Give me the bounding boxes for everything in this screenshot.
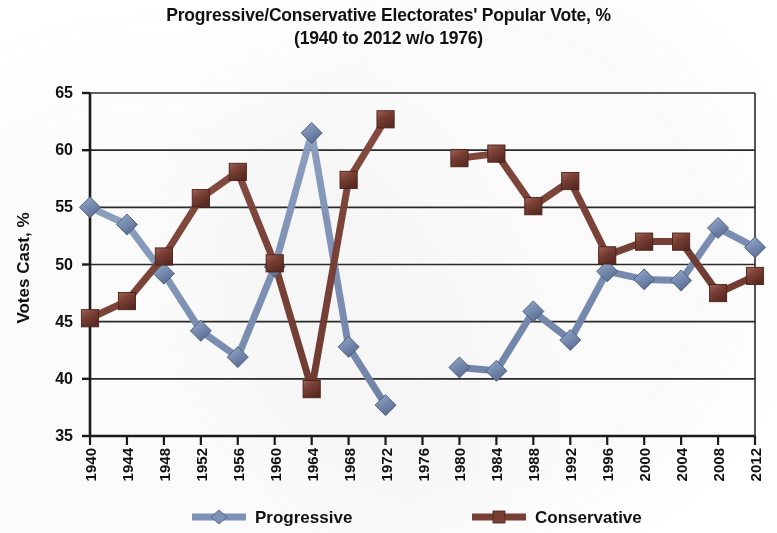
y-axis-tick-label: 65 bbox=[27, 85, 73, 101]
x-axis-tick-label: 1972 bbox=[378, 448, 395, 481]
data-point-square[interactable] bbox=[636, 233, 653, 250]
x-axis-tick-label: 1956 bbox=[230, 448, 247, 481]
series-progressive bbox=[90, 133, 755, 405]
plot-area: 65605550454035 1940194419481952195619601… bbox=[0, 0, 777, 533]
gridlines bbox=[90, 93, 755, 436]
legend-marker-diamond-icon bbox=[190, 509, 248, 525]
y-axis-tick-label: 50 bbox=[27, 257, 73, 273]
chart-legend: Progressive Conservative bbox=[0, 504, 777, 532]
data-point-square[interactable] bbox=[746, 267, 763, 284]
x-axis-tick-label: 2008 bbox=[710, 448, 727, 481]
x-axis-tick-label: 1964 bbox=[304, 448, 321, 481]
data-point-square[interactable] bbox=[118, 292, 135, 309]
x-axis-tick-label: 1996 bbox=[599, 448, 616, 481]
data-point-diamond[interactable] bbox=[449, 357, 470, 378]
data-point-square[interactable] bbox=[709, 284, 726, 301]
series-markers-progressive bbox=[80, 123, 766, 416]
data-point-square[interactable] bbox=[377, 111, 394, 128]
data-point-diamond[interactable] bbox=[80, 197, 101, 218]
x-axis-tick-label: 1992 bbox=[562, 448, 579, 481]
y-axis-tick-label: 60 bbox=[27, 142, 73, 158]
x-axis-tick-label: 2004 bbox=[673, 448, 690, 481]
data-point-square[interactable] bbox=[229, 163, 246, 180]
x-axis-tick-label: 1948 bbox=[156, 448, 173, 481]
x-axis-tick-label: 2000 bbox=[636, 448, 653, 481]
series-line-conservative bbox=[90, 119, 755, 389]
series-conservative bbox=[90, 119, 755, 389]
y-axis-tick-label: 45 bbox=[27, 314, 73, 330]
data-point-square[interactable] bbox=[266, 255, 283, 272]
data-point-square[interactable] bbox=[155, 248, 172, 265]
x-axis-tick-label: 1940 bbox=[82, 448, 99, 481]
chart-container: Progressive/Conservative Electorates' Po… bbox=[0, 0, 777, 533]
data-point-square[interactable] bbox=[525, 198, 542, 215]
data-point-square[interactable] bbox=[192, 190, 209, 207]
x-axis-tick-label: 1944 bbox=[119, 448, 136, 481]
x-axis-tick-label: 1984 bbox=[488, 448, 505, 481]
x-axis-tick-label: 1968 bbox=[341, 448, 358, 481]
axes bbox=[82, 93, 755, 445]
legend-diamond-icon bbox=[211, 510, 227, 524]
x-axis-tick-label: 1960 bbox=[267, 448, 284, 481]
data-point-square[interactable] bbox=[488, 145, 505, 162]
y-axis-tick-label: 40 bbox=[27, 371, 73, 387]
series-markers-conservative bbox=[81, 111, 763, 398]
x-axis-tick-label: 1980 bbox=[451, 448, 468, 481]
legend-marker-square-icon bbox=[470, 509, 528, 525]
legend-item-progressive[interactable]: Progressive bbox=[190, 504, 352, 530]
x-axis-tick-label: 2012 bbox=[747, 448, 764, 481]
legend-label-conservative: Conservative bbox=[535, 509, 642, 526]
data-point-square[interactable] bbox=[673, 233, 690, 250]
data-point-diamond[interactable] bbox=[301, 123, 322, 144]
legend-item-conservative[interactable]: Conservative bbox=[470, 504, 642, 530]
y-axis-tick-label: 55 bbox=[27, 199, 73, 215]
data-point-square[interactable] bbox=[340, 171, 357, 188]
y-axis-tick-label: 35 bbox=[27, 428, 73, 444]
data-point-square[interactable] bbox=[451, 150, 468, 167]
data-point-square[interactable] bbox=[81, 310, 98, 327]
series-line-progressive bbox=[90, 133, 755, 405]
data-point-square[interactable] bbox=[562, 172, 579, 189]
legend-square-icon bbox=[493, 511, 505, 523]
data-point-diamond[interactable] bbox=[634, 269, 655, 290]
data-point-square[interactable] bbox=[599, 247, 616, 264]
data-point-square[interactable] bbox=[303, 381, 320, 398]
legend-label-progressive: Progressive bbox=[255, 509, 352, 526]
x-axis-tick-label: 1988 bbox=[525, 448, 542, 481]
x-axis-tick-label: 1952 bbox=[193, 448, 210, 481]
x-axis-tick-label: 1976 bbox=[415, 448, 432, 481]
